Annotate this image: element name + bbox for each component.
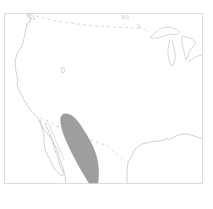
range-map: 8 0 bbox=[0, 0, 213, 209]
map-frame bbox=[5, 14, 203, 184]
border-lake-marks: 8 0 bbox=[122, 14, 129, 20]
